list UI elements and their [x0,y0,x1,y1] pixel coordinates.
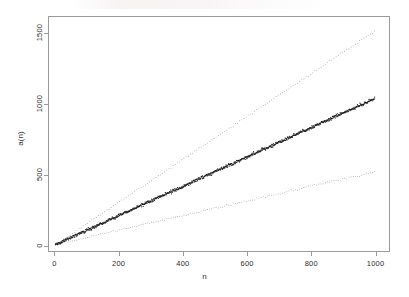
x-tick-mark [183,252,184,256]
y-tick-mark [44,175,48,176]
data-layer [49,17,389,251]
x-tick-label: 1000 [356,259,396,268]
y-tick-mark [44,33,48,34]
x-tick-label: 400 [163,259,203,268]
x-tick-mark [376,252,377,256]
y-tick-mark [44,104,48,105]
scatter-plot-figure: 050010001500 02004006008001000 n a(n) [0,0,409,297]
y-tick-mark [44,246,48,247]
series-main-band [55,97,375,246]
x-tick-mark [54,252,55,256]
plot-area [48,16,390,252]
x-axis-title: n [0,272,409,281]
x-tick-label: 200 [99,259,139,268]
y-tick-label: 1000 [35,90,44,116]
x-tick-mark [247,252,248,256]
x-tick-mark [119,252,120,256]
series-upper-envelope [55,31,375,246]
y-axis-title: a(n) [16,129,25,149]
y-tick-label: 500 [35,161,44,187]
y-tick-label: 0 [35,232,44,258]
x-tick-mark [311,252,312,256]
x-tick-label: 800 [291,259,331,268]
x-tick-label: 0 [34,259,74,268]
series-lower-envelope [55,171,375,245]
scan-artifact [70,0,330,9]
x-tick-label: 600 [227,259,267,268]
y-tick-label: 1500 [35,20,44,46]
